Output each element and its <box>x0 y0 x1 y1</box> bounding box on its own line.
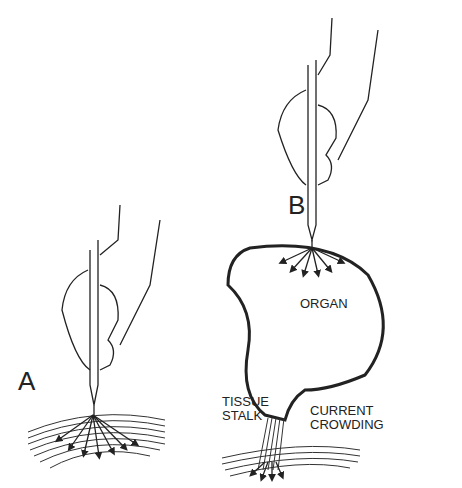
current-arrows-b-top <box>282 248 342 274</box>
current-arrows-b-bottom <box>252 462 282 478</box>
panel-label-a: A <box>18 368 35 395</box>
tissue-stalk-line1: TISSUE <box>222 395 269 409</box>
current-crowding-label: CURRENT CROWDING <box>310 404 384 431</box>
organ-label: ORGAN <box>300 297 348 311</box>
tissue-stalk-line2: STALK <box>222 409 269 423</box>
tissue-stalk-label: TISSUE STALK <box>222 395 269 422</box>
probe-hand-a <box>62 205 160 415</box>
panel-label-b: B <box>288 192 305 219</box>
current-crowding-line1: CURRENT <box>310 404 384 418</box>
tissue-layers-b <box>222 446 360 476</box>
current-crowding-line2: CROWDING <box>310 418 384 432</box>
